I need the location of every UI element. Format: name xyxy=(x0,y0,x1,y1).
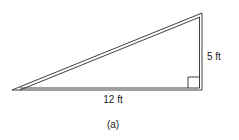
hypotenuse-inner xyxy=(20,17,200,90)
base-label: 12 ft xyxy=(103,94,123,105)
vertical-side-label: 5 ft xyxy=(207,51,221,62)
triangle-diagram: 5 ft 12 ft (a) xyxy=(0,0,239,140)
figure-caption: (a) xyxy=(107,119,119,130)
right-angle-marker xyxy=(188,77,200,88)
hypotenuse-outer xyxy=(12,13,202,90)
right-triangle xyxy=(12,13,202,90)
